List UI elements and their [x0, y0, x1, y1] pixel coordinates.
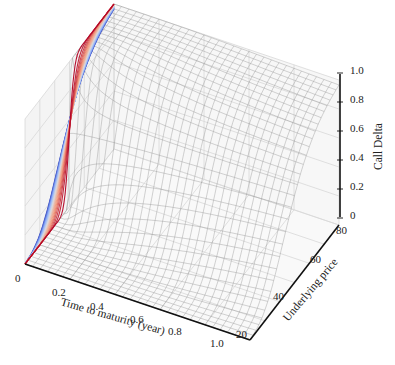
z-tick-5: 1.0 [350, 64, 364, 76]
y-tick-2: 60 [310, 253, 322, 265]
z-axis-label: Call Delta [372, 123, 384, 170]
surface-plot: 0 0.2 0.4 0.6 0.8 1.0 Time to maturity (… [0, 0, 395, 365]
x-tick-4: 0.8 [168, 325, 182, 337]
z-tick-1: 0.2 [350, 180, 364, 192]
z-tick-4: 0.8 [350, 93, 364, 105]
z-tick-0: 0 [350, 209, 356, 221]
x-tick-0: 0 [15, 272, 21, 284]
y-tick-0: 20 [236, 328, 248, 340]
y-tick-3: 80 [336, 224, 348, 236]
x-tick-5: 1.0 [210, 337, 224, 349]
z-axis-ticks: 0 0.2 0.4 0.6 0.8 1.0 [350, 64, 364, 221]
y-tick-1: 40 [273, 290, 285, 302]
z-tick-2: 0.4 [350, 151, 364, 163]
z-tick-3: 0.6 [350, 122, 364, 134]
